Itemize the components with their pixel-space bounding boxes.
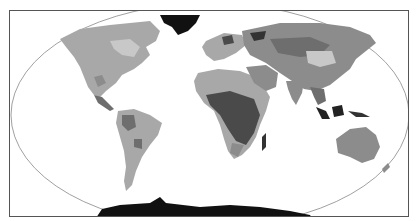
world-map (10, 11, 409, 217)
region-madagascar (262, 133, 266, 151)
region-sumatra (316, 107, 330, 119)
region-central-america (94, 95, 114, 111)
region-india (286, 81, 304, 105)
region-southeast-asia (310, 87, 326, 105)
region-north-america (60, 21, 160, 97)
region-new-guinea (348, 111, 370, 117)
region-borneo (332, 105, 344, 117)
region-greenland (160, 15, 200, 35)
region-australia (336, 127, 380, 163)
map-frame (9, 10, 409, 217)
region-antarctica (96, 197, 312, 217)
